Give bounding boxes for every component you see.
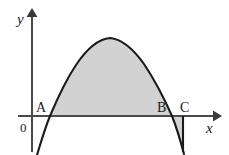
y-axis-label: y xyxy=(15,11,24,27)
point-label-b: B xyxy=(157,100,166,115)
point-label-c: C xyxy=(180,100,189,115)
x-axis-label: x xyxy=(205,120,213,136)
y-axis-arrowhead xyxy=(27,8,38,17)
math-figure: y x 0 A B C xyxy=(0,0,229,155)
x-axis-arrowhead xyxy=(213,111,222,122)
point-label-a: A xyxy=(36,100,47,115)
figure-canvas: y x 0 A B C xyxy=(0,0,229,155)
origin-label: 0 xyxy=(20,120,27,135)
